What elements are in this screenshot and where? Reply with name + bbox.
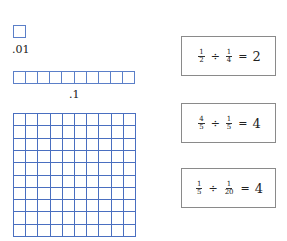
grid-cell [26, 163, 38, 175]
grid-cell [87, 139, 99, 151]
denominator: 20 [224, 189, 235, 196]
grid-cell [63, 176, 75, 188]
divisor-fraction: 1 5 [226, 116, 232, 131]
grid-cell [124, 212, 136, 224]
result: 2 [253, 49, 261, 64]
grid-cell [75, 139, 87, 151]
grid-cell [124, 176, 136, 188]
equation-box-1: 1 2 ÷ 1 4 = 2 [181, 36, 276, 76]
grid-cell [124, 188, 136, 200]
grid-cell [112, 139, 124, 151]
denominator: 5 [198, 124, 204, 131]
grid-cell [14, 176, 26, 188]
strip-cell [14, 72, 26, 84]
equation-2: 4 5 ÷ 1 5 = 4 [196, 116, 261, 131]
denominator: 4 [226, 57, 232, 64]
grid-cell [75, 188, 87, 200]
grid-cell [87, 225, 99, 237]
hundred-grid [13, 113, 136, 237]
grid-cell [112, 126, 124, 138]
dividend-fraction: 4 5 [198, 116, 204, 131]
divide-operator: ÷ [211, 117, 220, 130]
grid-cell [63, 225, 75, 237]
grid-cell [99, 163, 111, 175]
grid-cell [51, 225, 63, 237]
grid-cell [75, 126, 87, 138]
grid-cell [26, 200, 38, 212]
grid-cell [112, 151, 124, 163]
grid-cell [87, 126, 99, 138]
grid-cell [99, 200, 111, 212]
grid-cell [38, 225, 50, 237]
grid-cell [75, 225, 87, 237]
strip-cell [62, 72, 74, 84]
grid-cell [38, 126, 50, 138]
grid-cell [112, 200, 124, 212]
equation-box-3: 1 5 ÷ 1 20 = 4 [181, 168, 276, 208]
grid-cell [38, 114, 50, 126]
grid-cell [124, 126, 136, 138]
grid-cell [75, 212, 87, 224]
grid-cell [99, 139, 111, 151]
grid-cell [124, 114, 136, 126]
grid-cell [51, 151, 63, 163]
grid-cell [75, 114, 87, 126]
grid-cell [38, 163, 50, 175]
grid-cell [26, 139, 38, 151]
grid-cell [14, 163, 26, 175]
divisor-fraction: 1 4 [226, 49, 232, 64]
grid-cell [99, 225, 111, 237]
grid-cell [26, 114, 38, 126]
grid-cell [14, 225, 26, 237]
grid-cell [63, 114, 75, 126]
grid-cell [26, 212, 38, 224]
dividend-fraction: 1 5 [196, 181, 202, 196]
grid-cell [112, 163, 124, 175]
grid-cell [38, 151, 50, 163]
grid-cell [75, 200, 87, 212]
grid-cell [14, 151, 26, 163]
equals-sign: = [238, 117, 247, 130]
equation-1: 1 2 ÷ 1 4 = 2 [196, 49, 261, 64]
denominator: 5 [226, 124, 232, 131]
grid-cell [112, 225, 124, 237]
result: 4 [255, 181, 263, 196]
grid-cell [51, 200, 63, 212]
grid-cell [38, 188, 50, 200]
result: 4 [253, 116, 261, 131]
grid-cell [124, 200, 136, 212]
strip-cell [26, 72, 38, 84]
strip-cell [99, 72, 111, 84]
hundredth-label: .01 [12, 44, 30, 56]
grid-cell [38, 200, 50, 212]
grid-cell [26, 126, 38, 138]
grid-cell [112, 176, 124, 188]
grid-cell [87, 151, 99, 163]
grid-cell [51, 126, 63, 138]
strip-cell [38, 72, 50, 84]
grid-cell [99, 212, 111, 224]
grid-cell [99, 188, 111, 200]
grid-cell [75, 163, 87, 175]
grid-cell [38, 212, 50, 224]
grid-cell [87, 176, 99, 188]
hundredth-square [13, 25, 26, 38]
grid-cell [87, 200, 99, 212]
grid-cell [14, 200, 26, 212]
grid-cell [38, 176, 50, 188]
grid-cell [87, 188, 99, 200]
grid-cell [51, 163, 63, 175]
tenth-strip [13, 71, 135, 84]
tenth-label: .1 [69, 89, 80, 101]
grid-cell [87, 212, 99, 224]
dividend-fraction: 1 2 [198, 49, 204, 64]
grid-cell [124, 225, 136, 237]
grid-cell [14, 188, 26, 200]
grid-cell [26, 151, 38, 163]
grid-cell [87, 163, 99, 175]
grid-cell [63, 212, 75, 224]
grid-cell [75, 151, 87, 163]
equals-sign: = [241, 182, 250, 195]
grid-cell [63, 188, 75, 200]
grid-cell [99, 126, 111, 138]
